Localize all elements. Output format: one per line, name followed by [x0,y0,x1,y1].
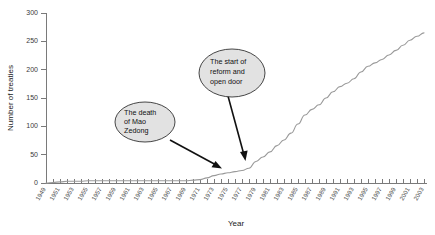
y-tick-label: 200 [26,66,38,73]
x-tick-label: 1967 [160,186,173,202]
x-tick-label: 1955 [76,186,89,202]
y-tick-label: 100 [26,122,38,129]
x-tick-label: 1997 [370,186,383,202]
y-tick-label: 300 [26,9,38,16]
x-tick-label: 1991 [328,186,341,202]
x-tick-label: 1963 [132,186,145,202]
y-tick-label: 50 [30,151,38,158]
annotation-reform-open-door: The start of reform and open door [199,49,265,161]
x-tick-label: 1949 [34,186,47,202]
x-tick-label: 1999 [384,186,397,202]
x-tick-label: 1959 [104,186,117,202]
x-tick-label: 1979 [244,186,257,202]
annotation-leader-line [228,96,244,155]
x-tick-label: 1973 [202,186,215,202]
x-tick-label: 1977 [230,186,243,202]
annotation-arrow-head [240,151,248,162]
y-tick-label: 150 [26,94,38,101]
x-tick-label: 1971 [188,186,201,202]
x-tick-labels: 1949195119531955195719591961196319651967… [34,186,425,202]
annotation-line-1: The start of [210,57,246,66]
annotation-line-3: open door [210,77,243,86]
x-tick-label: 2001 [398,186,411,202]
y-tick-group [41,13,46,183]
x-tick-label: 1953 [62,186,75,202]
x-tick-label: 1951 [48,186,61,202]
annotation-line-1: The death [124,108,156,117]
x-tick-label: 1981 [258,186,271,202]
chart-plot-area: Number of treaties 0 50 100 150 200 250 … [0,0,435,235]
x-tick-label: 1983 [272,186,285,202]
x-tick-label: 1995 [356,186,369,202]
y-tick-label: 0 [34,179,38,186]
x-tick-label: 1957 [90,186,103,202]
x-tick-label: 1993 [342,186,355,202]
annotation-line-3: Zedong [124,126,148,135]
x-tick-label: 1961 [118,186,131,202]
x-tick-label: 1969 [174,186,187,202]
annotation-mao-death: The death of Mao Zedong [115,102,222,169]
y-tick-labels: 0 50 100 150 200 250 300 [26,9,38,186]
y-axis-title: Number of treaties [6,65,15,131]
x-tick-label: 1985 [286,186,299,202]
annotation-arrow-head [212,161,223,169]
x-tick-label: 2003 [412,186,425,202]
x-tick-label: 1965 [146,186,159,202]
annotation-line-2: of Mao [124,117,146,126]
x-tick-label: 1987 [300,186,313,202]
annotation-leader-line [170,140,218,166]
x-tick-label: 1975 [216,186,229,202]
annotation-line-2: reform and [210,67,245,76]
x-axis-title: Year [228,219,245,228]
treaties-line-chart: Number of treaties 0 50 100 150 200 250 … [0,0,435,235]
x-tick-label: 1989 [314,186,327,202]
y-tick-label: 250 [26,37,38,44]
